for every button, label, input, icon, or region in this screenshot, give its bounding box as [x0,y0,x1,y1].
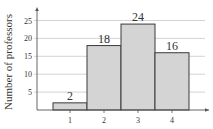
x-axis-arrow-icon [205,108,209,112]
bar-1 [53,103,87,110]
bar-2 [87,46,121,110]
bars [53,24,189,110]
bar-3 [121,24,155,110]
bar-4 [155,53,189,110]
y-tick-label: 5 [28,88,32,97]
y-tick-label: 15 [24,52,32,61]
x-tick-label: 4 [170,116,174,125]
y-tick-label: 10 [24,70,32,79]
y-tick-label: 20 [24,34,32,43]
x-tick-label: 1 [68,116,72,125]
bar-value-label: 18 [98,32,110,46]
y-axis-arrow-icon [35,7,39,11]
bar-value-label: 24 [132,10,144,24]
bar-value-label: 2 [67,89,73,103]
x-tick-label: 2 [102,116,106,125]
x-tick-label: 3 [136,116,140,125]
bar-value-label: 16 [166,39,178,53]
histogram-chart: 5101520251234 2182416 Number of professo… [0,0,213,129]
y-axis-label: Number of professors [2,14,14,110]
y-tick-label: 25 [24,17,32,26]
